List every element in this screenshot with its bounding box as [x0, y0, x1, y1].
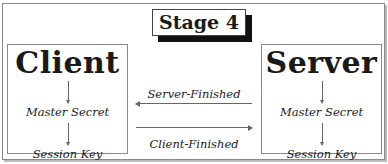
left-arrow-icon [136, 103, 252, 104]
client-box: Client Master Secret Session Key [7, 44, 128, 154]
server-master-secret: Master Secret [262, 105, 381, 119]
server-down-arrow-icon [322, 123, 323, 145]
client-title: Client [8, 47, 127, 79]
server-down-arrow-icon [322, 81, 323, 103]
server-finished-label: Server-Finished [136, 87, 252, 101]
client-session-key: Session Key [8, 147, 127, 161]
server-box: Server Master Secret Session Key [261, 44, 382, 154]
right-arrow-icon [136, 127, 252, 128]
client-master-secret: Master Secret [8, 105, 127, 119]
server-session-key: Session Key [262, 147, 381, 161]
client-down-arrow-icon [68, 123, 69, 145]
client-down-arrow-icon [68, 81, 69, 103]
stage-label-box: Stage 4 [152, 9, 246, 36]
client-finished-label: Client-Finished [136, 137, 252, 151]
server-title: Server [262, 47, 381, 79]
stage-label: Stage 4 [152, 9, 246, 36]
